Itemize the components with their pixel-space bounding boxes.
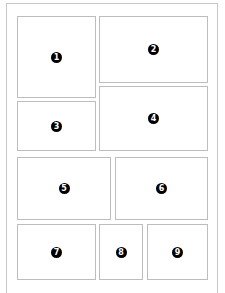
panel-number-badge: 2 <box>148 44 159 55</box>
panel-7: 7 <box>17 224 96 280</box>
panel-2: 2 <box>99 16 208 83</box>
panel-number-badge: 9 <box>172 247 183 258</box>
panel-number-badge: 3 <box>51 121 62 132</box>
panel-6: 6 <box>115 157 208 220</box>
panel-8: 8 <box>99 224 143 280</box>
panel-number-badge: 8 <box>116 247 127 258</box>
panel-1: 1 <box>17 16 96 98</box>
panel-4: 4 <box>99 86 208 151</box>
panel-number-badge: 5 <box>59 183 70 194</box>
panel-9: 9 <box>147 224 208 280</box>
panel-number-badge: 4 <box>148 113 159 124</box>
panel-number-badge: 7 <box>51 247 62 258</box>
panel-3: 3 <box>17 101 96 151</box>
panel-5: 5 <box>17 157 111 220</box>
panel-number-badge: 1 <box>51 52 62 63</box>
panel-number-badge: 6 <box>156 183 167 194</box>
